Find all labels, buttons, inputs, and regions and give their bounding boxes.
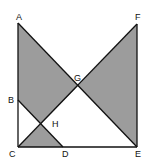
point-label-h: H — [52, 119, 59, 129]
point-label-c: C — [9, 149, 16, 159]
geometry-diagram: A F G B H C D E — [0, 0, 150, 167]
point-label-d: D — [62, 149, 69, 159]
point-label-e: E — [135, 149, 141, 159]
point-label-g: G — [74, 73, 81, 83]
point-label-b: B — [8, 95, 14, 105]
point-label-a: A — [16, 12, 22, 22]
shaded-region-gef — [78, 24, 137, 147]
point-label-f: F — [135, 12, 141, 22]
